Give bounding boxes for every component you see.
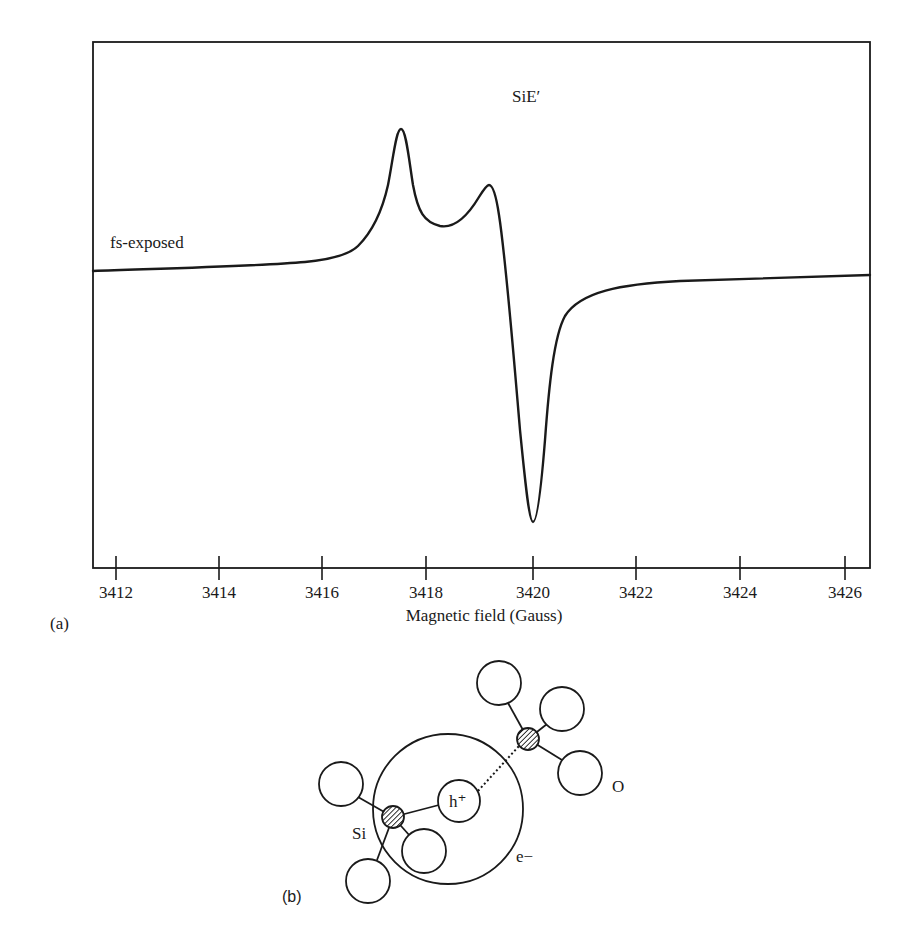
silicon-label: Si <box>352 824 366 843</box>
panel-a-label: (a) <box>50 614 69 633</box>
x-axis-label: Magnetic field (Gauss) <box>406 606 563 625</box>
hole-label: h⁺ <box>449 792 466 811</box>
defect-structure-diagram <box>319 661 602 903</box>
tick-label: 3426 <box>828 583 862 602</box>
tick-label: 3412 <box>99 583 133 602</box>
electron-label: e− <box>516 847 533 866</box>
oxygen-atom <box>346 859 390 903</box>
oxygen-label: O <box>612 777 624 796</box>
oxygen-atom <box>477 661 521 705</box>
panel-b-label: (b) <box>282 888 302 905</box>
oxygen-atom <box>558 751 602 795</box>
silicon-atom <box>517 728 539 750</box>
spectrum-curve <box>93 129 870 522</box>
tick-label: 3414 <box>202 583 237 602</box>
tick-label: 3424 <box>723 583 758 602</box>
silicon-atom <box>382 806 404 828</box>
tick-label: 3416 <box>305 583 339 602</box>
figure-canvas: 3412 3414 3416 3418 3420 3422 3424 3426 … <box>0 0 912 948</box>
oxygen-atom <box>540 687 584 731</box>
peak-label: SiE′ <box>512 87 540 106</box>
epr-spectrum-panel: 3412 3414 3416 3418 3420 3422 3424 3426 … <box>50 42 870 633</box>
x-axis-tick-labels: 3412 3414 3416 3418 3420 3422 3424 3426 <box>99 583 862 602</box>
tick-label: 3420 <box>516 583 550 602</box>
oxygen-atom <box>402 829 446 873</box>
series-label: fs-exposed <box>110 233 184 252</box>
plot-frame <box>93 42 870 568</box>
tick-label: 3422 <box>619 583 653 602</box>
tick-label: 3418 <box>409 583 443 602</box>
oxygen-atom <box>319 762 363 806</box>
